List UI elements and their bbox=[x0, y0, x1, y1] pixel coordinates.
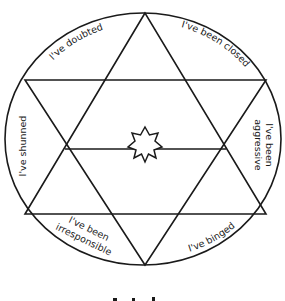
svg-text:I've been: I've been bbox=[264, 123, 275, 167]
segment-label-right: I've been aggressive bbox=[253, 119, 275, 171]
svg-text:aggressive: aggressive bbox=[253, 119, 264, 171]
segment-label-top-right: I've been closed bbox=[180, 18, 252, 68]
hexagram-wheel-diagram: I've doubted I've been closed I've been … bbox=[0, 0, 285, 301]
center-star-icon bbox=[128, 127, 162, 162]
segment-label-left: I've shunned bbox=[17, 116, 28, 177]
segment-label-bottom-left: I've been irresponsible bbox=[54, 210, 119, 257]
svg-text:I've shunned: I've shunned bbox=[17, 116, 28, 177]
caption-fragment bbox=[113, 297, 155, 301]
